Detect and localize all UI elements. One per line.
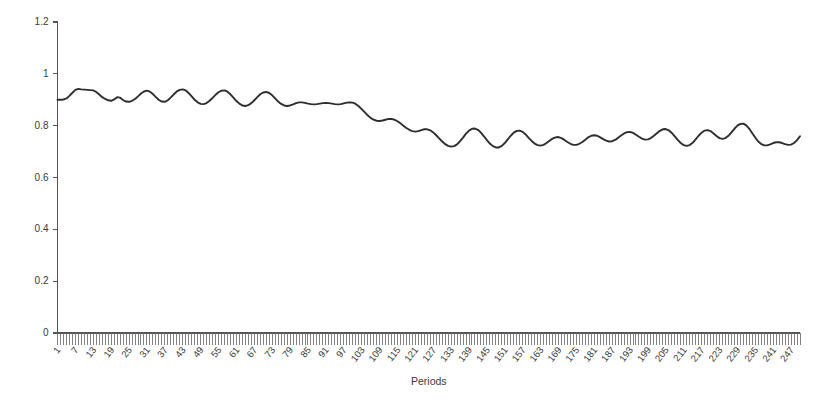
y-tick-label: 1.2 [35,16,49,27]
line-chart: 00.20.40.60.811.2 1713192531374349556167… [0,0,821,408]
chart-container: 00.20.40.60.811.2 1713192531374349556167… [0,0,821,408]
y-tick-label: 1 [43,68,49,79]
y-tick-label: 0 [43,327,49,338]
x-axis-title: Periods [411,375,447,387]
y-tick-label: 0.2 [35,275,49,286]
y-tick-label: 0.8 [35,120,49,131]
y-tick-label: 0.4 [35,223,49,234]
y-tick-label: 0.6 [35,172,49,183]
